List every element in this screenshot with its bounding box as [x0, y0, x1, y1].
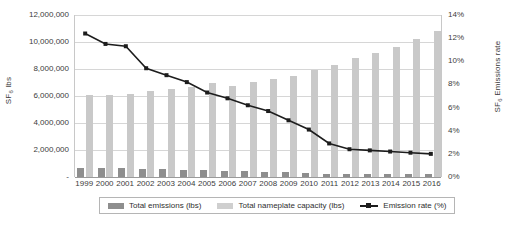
y-axis-left-tick: 6,000,000	[8, 91, 74, 100]
y-axis-left-tick: 4,000,000	[8, 118, 74, 127]
y-axis-left-tick: 12,000,000	[8, 10, 74, 19]
y-axis-left-tick: 8,000,000	[8, 64, 74, 73]
x-axis-tick: 2001	[115, 179, 135, 188]
gridline	[75, 177, 441, 178]
sf6-emissions-chart: SF6 lbs SF6 Emissions rate -2,000,0004,0…	[0, 0, 515, 225]
emission-rate-marker	[409, 151, 413, 155]
emission-rate-marker	[144, 66, 148, 70]
x-axis-tick: 2010	[299, 179, 319, 188]
y-axis-left-ticks: -2,000,0004,000,0006,000,0008,000,00010,…	[0, 15, 74, 177]
x-axis-tick: 2013	[360, 179, 380, 188]
legend-label-total-emissions: Total emissions (lbs)	[129, 201, 201, 210]
x-axis-tick: 2012	[340, 179, 360, 188]
y-axis-right-tick: 10%	[443, 56, 483, 65]
emission-rate-marker	[388, 150, 392, 154]
x-axis-tick: 2005	[197, 179, 217, 188]
emission-rate-marker	[327, 141, 331, 145]
y-axis-right-ticks: 0%2%4%6%8%10%12%14%	[443, 15, 488, 177]
emission-rate-marker	[307, 128, 311, 132]
y-axis-right-tick: 2%	[443, 149, 483, 158]
y-axis-left-tick: 10,000,000	[8, 37, 74, 46]
x-axis-tick: 2014	[381, 179, 401, 188]
y-axis-right-tick: 12%	[443, 33, 483, 42]
legend-item-total-emissions: Total emissions (lbs)	[108, 201, 201, 210]
x-axis-tick: 2015	[401, 179, 421, 188]
emission-rate-marker	[104, 42, 108, 46]
x-axis-tick: 2008	[258, 179, 278, 188]
emission-rate-marker	[83, 32, 87, 36]
legend-swatch-capacity	[217, 203, 233, 209]
x-axis-tick: 2006	[217, 179, 237, 188]
chart-legend: Total emissions (lbs) Total nameplate ca…	[99, 197, 455, 214]
x-axis-tick: 2016	[422, 179, 442, 188]
y-axis-right-tick: 14%	[443, 10, 483, 19]
emission-rate-marker	[287, 118, 291, 122]
x-axis-tick: 2003	[156, 179, 176, 188]
legend-swatch-line	[360, 202, 378, 209]
x-axis-tick: 2011	[319, 179, 339, 188]
y-axis-left-tick: 2,000,000	[8, 145, 74, 154]
y-axis-right-tick: 6%	[443, 103, 483, 112]
emission-rate-marker	[205, 91, 209, 95]
emission-rate-polyline	[85, 34, 431, 154]
y-axis-right-tick: 4%	[443, 126, 483, 135]
emission-rate-marker	[185, 80, 189, 84]
emission-rate-marker	[165, 73, 169, 77]
emission-rate-marker	[348, 147, 352, 151]
y-axis-right-tick: 8%	[443, 79, 483, 88]
x-axis-tick: 2007	[238, 179, 258, 188]
emission-rate-marker	[124, 44, 128, 48]
legend-label-emission-rate: Emission rate (%)	[383, 201, 446, 210]
x-axis-tick: 2009	[278, 179, 298, 188]
x-axis-tick: 2004	[176, 179, 196, 188]
y-axis-right-title: SF6 Emissions rate	[493, 32, 502, 122]
x-axis-tick: 1999	[74, 179, 94, 188]
emission-rate-marker	[266, 109, 270, 113]
y-axis-right-tick: 0%	[443, 172, 483, 181]
legend-swatch-emissions	[108, 203, 124, 209]
emission-rate-line	[75, 15, 441, 177]
emission-rate-marker	[246, 103, 250, 107]
legend-label-nameplate-capacity: Total nameplate capacity (lbs)	[238, 201, 344, 210]
emission-rate-marker	[429, 152, 433, 156]
x-axis-labels: 1999200020012002200320042005200620072008…	[74, 179, 442, 191]
plot-area	[74, 15, 442, 177]
x-axis-tick: 2002	[135, 179, 155, 188]
legend-item-nameplate-capacity: Total nameplate capacity (lbs)	[217, 201, 344, 210]
legend-item-emission-rate: Emission rate (%)	[360, 201, 446, 210]
x-axis-tick: 2000	[94, 179, 114, 188]
y-axis-left-tick: -	[8, 172, 74, 181]
emission-rate-marker	[368, 148, 372, 152]
emission-rate-marker	[226, 96, 230, 100]
